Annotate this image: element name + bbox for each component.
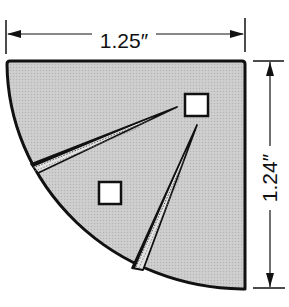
- arrowhead-left-icon: [7, 30, 21, 38]
- width-dimension-label: 1.25″: [100, 29, 149, 52]
- height-dimension: 1.24″: [253, 61, 285, 288]
- square-hole-lower: [99, 182, 121, 204]
- arrowhead-up-icon: [266, 62, 274, 76]
- quarter-circle-part: [7, 61, 245, 289]
- square-hole-upper: [185, 94, 208, 116]
- quarter-circle-part-diagram: 1.25″ 1.24″: [0, 0, 289, 307]
- arrowhead-down-icon: [266, 273, 274, 287]
- width-dimension: 1.25″: [6, 18, 245, 54]
- height-dimension-label: 1.24″: [258, 153, 281, 202]
- arrowhead-right-icon: [230, 30, 244, 38]
